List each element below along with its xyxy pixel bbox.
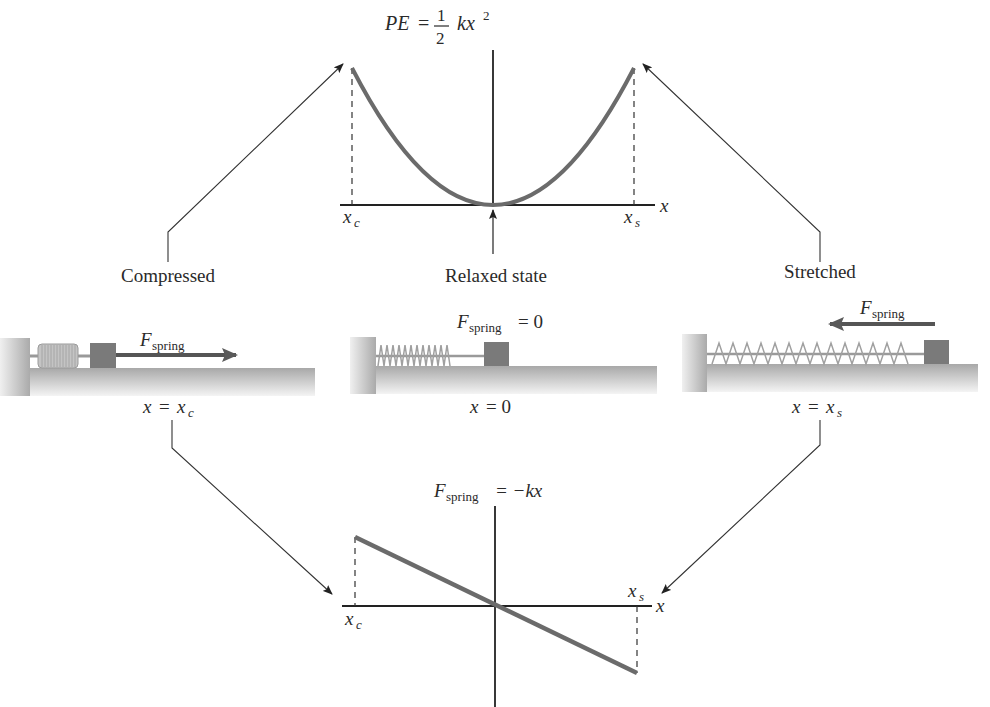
pe-title-exp: 2 bbox=[483, 8, 490, 23]
pe-graph: PE = 1 2 kx 2 x x c x s bbox=[340, 6, 669, 254]
pe-xs-label: x bbox=[623, 206, 633, 227]
relaxed-scene: F spring = 0 x = 0 bbox=[350, 311, 657, 417]
pe-title-eq: = bbox=[418, 12, 429, 34]
stretched-pos-rhs: x bbox=[825, 396, 835, 417]
compressed-label: Compressed bbox=[121, 265, 215, 286]
pe-title-frac-num: 1 bbox=[437, 6, 446, 25]
force-line bbox=[355, 537, 637, 673]
compressed-force-sub: spring bbox=[152, 338, 185, 353]
compressed-force-label: F bbox=[139, 329, 152, 350]
stretched-label: Stretched bbox=[784, 261, 856, 282]
stretched-pos-sub: s bbox=[837, 405, 842, 420]
relaxed-label: Relaxed state bbox=[445, 265, 547, 286]
pe-title-frac-den: 2 bbox=[436, 29, 445, 48]
relaxed-pos-lhs: x bbox=[469, 396, 479, 417]
force-xc-label: x bbox=[344, 608, 354, 629]
compressed-scene: F spring x = x c bbox=[0, 329, 315, 420]
stretched-pos-lhs: x bbox=[791, 396, 801, 417]
stretched-force-label: F bbox=[859, 297, 872, 318]
block bbox=[90, 343, 116, 368]
force-x-label: x bbox=[655, 595, 665, 616]
block bbox=[924, 340, 949, 364]
relaxed-force-eq: = 0 bbox=[518, 311, 543, 332]
force-xs-sub: s bbox=[639, 589, 644, 604]
stretched-pos-eq: = bbox=[808, 396, 819, 417]
wall bbox=[682, 334, 707, 392]
compressed-to-force-arrow bbox=[172, 420, 332, 594]
force-xc-sub: c bbox=[356, 617, 362, 632]
force-title-rhs: = −kx bbox=[495, 480, 543, 501]
floor bbox=[682, 364, 978, 392]
compressed-pos-eq: = bbox=[159, 396, 170, 417]
force-xs-label: x bbox=[627, 580, 637, 601]
floor bbox=[350, 366, 657, 394]
compressed-pos-lhs: x bbox=[142, 396, 152, 417]
compressed-to-pe-arrow bbox=[168, 64, 343, 262]
floor bbox=[0, 368, 315, 396]
relaxed-pos-eq: = 0 bbox=[486, 396, 511, 417]
relaxed-force-label: F bbox=[456, 311, 469, 332]
pe-xs-sub: s bbox=[635, 215, 640, 230]
compressed-pos-sub: c bbox=[188, 405, 194, 420]
pe-title-lhs: PE bbox=[384, 12, 409, 34]
wall bbox=[350, 337, 376, 394]
wall bbox=[0, 338, 30, 396]
force-title-lhs: F bbox=[433, 480, 446, 501]
pe-xc-label: x bbox=[342, 206, 352, 227]
force-graph: F spring = −kx x x c x s bbox=[342, 480, 665, 707]
pe-x-label: x bbox=[659, 195, 669, 216]
force-title-sub: spring bbox=[446, 489, 479, 504]
spring-energy-diagram: PE = 1 2 kx 2 x x c x s Compressed Relax… bbox=[0, 0, 990, 707]
block bbox=[484, 342, 509, 366]
pe-title-rhs: kx bbox=[457, 12, 475, 34]
stretched-scene: F spring x = x s bbox=[682, 297, 978, 420]
relaxed-force-sub: spring bbox=[469, 320, 502, 335]
stretched-to-pe-arrow bbox=[643, 64, 820, 262]
stretched-to-force-arrow bbox=[662, 420, 820, 593]
compressed-pos-rhs: x bbox=[176, 396, 186, 417]
stretched-force-sub: spring bbox=[872, 306, 905, 321]
pe-xc-sub: c bbox=[354, 215, 360, 230]
